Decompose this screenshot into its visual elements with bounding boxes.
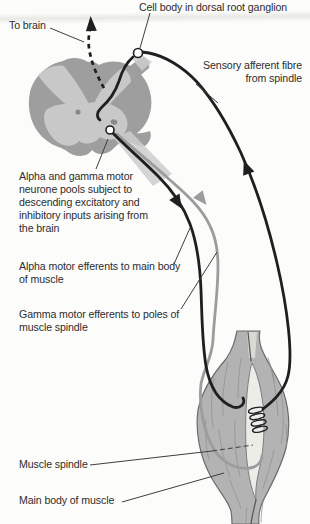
alpha-efferents-label: Alpha motor efferents to main body of mu… bbox=[19, 260, 211, 286]
central-canal bbox=[75, 109, 80, 114]
spindle-leader bbox=[90, 451, 212, 465]
gamma-efferents-label: Gamma motor efferents to poles of muscle… bbox=[19, 308, 211, 334]
sensory-arrowhead-icon bbox=[238, 158, 254, 175]
main-body-leader bbox=[122, 473, 224, 502]
muscle-spindle-label: Muscle spindle bbox=[19, 458, 88, 471]
to-brain-leader bbox=[50, 28, 84, 42]
sensory-afferent-label: Sensory afferent fibre from spindle bbox=[183, 59, 302, 85]
cell-body-leader bbox=[140, 13, 150, 48]
to-brain-arrowhead-icon bbox=[85, 16, 97, 32]
muscle bbox=[197, 331, 289, 524]
sensory-leader bbox=[196, 84, 218, 103]
motor-pools-label: Alpha and gamma motor neurone pools subj… bbox=[19, 170, 191, 235]
cell-body-label: Cell body in dorsal root ganglion bbox=[139, 1, 307, 14]
reflex-arc-diagram: To brain Cell body in dorsal root gangli… bbox=[0, 0, 310, 524]
to-brain-label: To brain bbox=[9, 19, 46, 32]
dorsal-root-ganglion-cell-body bbox=[134, 49, 143, 58]
muscle-body-shape bbox=[197, 331, 289, 524]
motor-neurone-cell-body bbox=[106, 126, 114, 134]
main-body-label: Main body of muscle bbox=[19, 494, 114, 507]
